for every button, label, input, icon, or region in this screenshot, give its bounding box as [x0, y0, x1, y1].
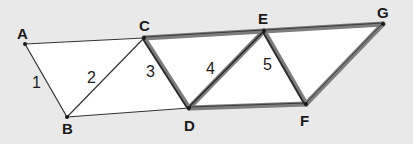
segment-number-3: 3: [146, 63, 155, 80]
joint-D-icon: [187, 106, 191, 110]
segment-number-4: 4: [206, 60, 215, 77]
joint-F-icon: [304, 102, 308, 106]
segment-number-5: 5: [263, 56, 272, 73]
point-label-D: D: [184, 117, 195, 134]
joint-G-icon: [381, 22, 385, 26]
truss-diagram: A B C D E F G 1 2 3 4 5: [0, 0, 413, 144]
point-label-E: E: [258, 10, 268, 27]
segment-number-2: 2: [87, 69, 96, 86]
diagram-canvas: A B C D E F G 1 2 3 4 5: [0, 0, 413, 144]
joint-C-icon: [142, 36, 146, 40]
joint-E-icon: [262, 29, 266, 33]
point-label-C: C: [139, 17, 150, 34]
shape-fill: [25, 24, 383, 117]
joint-B-icon: [65, 115, 69, 119]
point-label-F: F: [300, 112, 309, 129]
joint-A-icon: [23, 42, 27, 46]
point-label-A: A: [17, 25, 28, 42]
point-label-B: B: [62, 120, 73, 137]
point-label-G: G: [377, 4, 389, 21]
segment-number-1: 1: [32, 74, 41, 91]
